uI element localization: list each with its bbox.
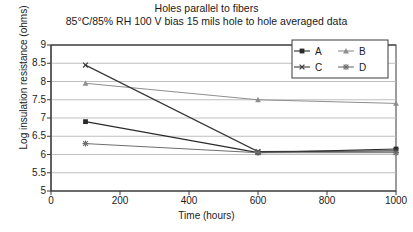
legend-label-B: B bbox=[359, 46, 366, 57]
data-point-D bbox=[393, 150, 399, 156]
legend-marker-D bbox=[343, 64, 349, 70]
data-point-D bbox=[255, 150, 261, 156]
plot-area: ABCD bbox=[0, 0, 413, 232]
chart-container: Holes parallel to fibers 85°C/85% RH 100… bbox=[0, 0, 413, 232]
legend-label-D: D bbox=[359, 62, 366, 73]
legend-label-A: A bbox=[315, 46, 322, 57]
legend-label-C: C bbox=[315, 62, 322, 73]
data-point-D bbox=[83, 141, 89, 147]
data-point-A bbox=[83, 119, 88, 124]
legend-box bbox=[292, 40, 388, 78]
legend-marker-A bbox=[300, 49, 305, 54]
